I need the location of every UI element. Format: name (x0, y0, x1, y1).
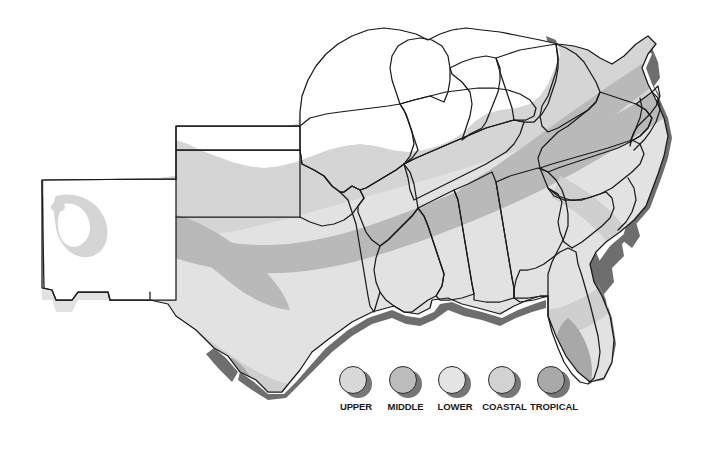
legend-swatch-tropical (537, 366, 565, 394)
legend-swatch-wrap-upper (339, 366, 373, 398)
unzoned-dot (51, 202, 65, 212)
legend-label-upper: UPPER (340, 401, 372, 412)
legend-label-lower: LOWER (438, 401, 473, 412)
legend-swatch-wrap-tropical (537, 366, 571, 398)
legend-label-middle: MIDDLE (388, 401, 424, 412)
legend-swatch-wrap-lower (438, 366, 472, 398)
gardening-zones-map-figure: UPPER MIDDLE LOWER COASTAL (0, 0, 710, 455)
map-legend: UPPER MIDDLE LOWER COASTAL (332, 366, 578, 420)
legend-label-coastal: COASTAL (482, 401, 527, 412)
legend-item-lower[interactable]: LOWER (431, 366, 479, 412)
legend-swatch-lower (438, 366, 466, 394)
legend-label-tropical: TROPICAL (530, 401, 578, 412)
legend-item-middle[interactable]: MIDDLE (382, 366, 430, 412)
legend-swatch-wrap-coastal (488, 366, 522, 398)
legend-swatch-upper (339, 366, 367, 394)
legend-item-upper[interactable]: UPPER (332, 366, 380, 412)
legend-swatch-coastal (488, 366, 516, 394)
legend-swatch-wrap-middle (389, 366, 423, 398)
legend-item-coastal[interactable]: COASTAL (481, 366, 529, 412)
legend-item-tropical[interactable]: TROPICAL (530, 366, 578, 412)
legend-swatch-middle (389, 366, 417, 394)
